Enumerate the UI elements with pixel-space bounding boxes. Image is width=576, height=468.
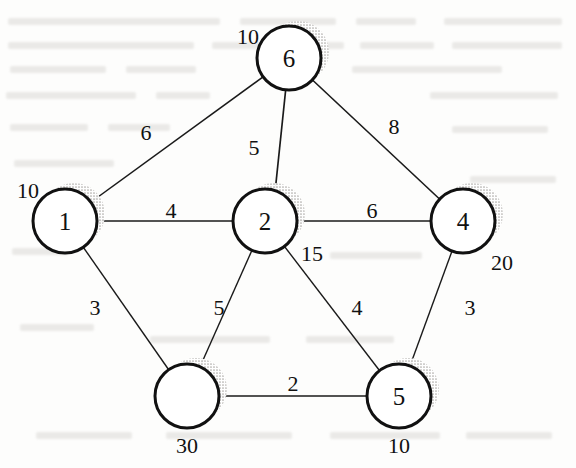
edge-weight-4-5: 3 <box>465 295 476 320</box>
node-label-4: 4 <box>457 208 470 235</box>
node-label-5: 5 <box>393 383 406 410</box>
node-weight-6: 10 <box>237 24 259 49</box>
edge-weight-6-4: 8 <box>389 114 400 139</box>
edge-weight-1-2: 4 <box>166 198 177 223</box>
node-label-2: 2 <box>259 208 272 235</box>
graph-figure: 6 1 2 4 5 10 10 15 20 30 10 6 5 8 4 6 3 … <box>0 0 576 468</box>
edge-weight-3-5: 2 <box>288 371 299 396</box>
edge-weight-layer: 6 5 8 4 6 3 5 4 3 2 <box>90 114 476 396</box>
node-weight-5: 10 <box>388 433 410 458</box>
graph-canvas: 6 1 2 4 5 10 10 15 20 30 10 6 5 8 4 6 3 … <box>0 0 576 468</box>
node-weight-3: 30 <box>176 433 198 458</box>
node-label-layer: 6 1 2 4 5 <box>59 45 470 410</box>
edge-weight-2-3: 5 <box>214 295 225 320</box>
node-label-1: 1 <box>59 208 72 235</box>
edge-weight-1-3: 3 <box>90 295 101 320</box>
edge-weight-2-5: 4 <box>352 295 363 320</box>
edge-weight-1-6: 6 <box>141 120 152 145</box>
node-weight-1: 10 <box>17 178 39 203</box>
edge-6-4 <box>289 58 463 221</box>
edge-weight-2-4: 6 <box>367 198 378 223</box>
node-circle-3[interactable] <box>155 364 219 428</box>
edge-weight-6-2: 5 <box>249 135 260 160</box>
node-weight-2: 15 <box>301 241 323 266</box>
node-label-6: 6 <box>283 45 296 72</box>
node-weight-4: 20 <box>491 250 513 275</box>
